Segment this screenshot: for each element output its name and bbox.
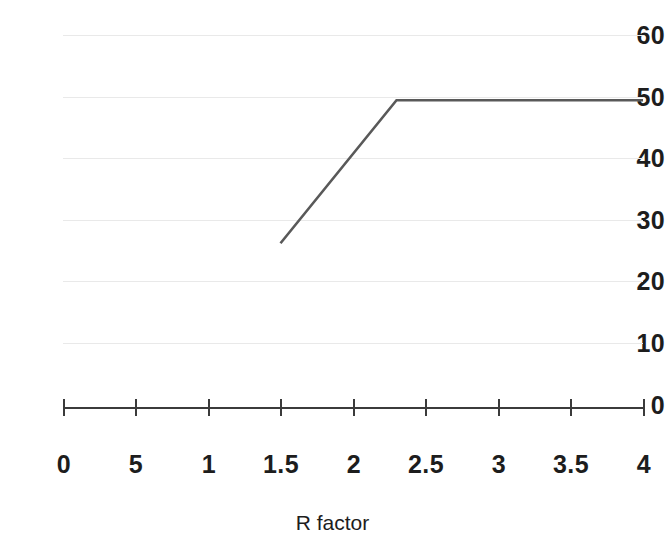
x-axis-tick xyxy=(498,399,500,416)
chart-container: 60 50 40 30 20 10 0 0 5 1 1.5 xyxy=(0,0,665,556)
x-axis-tick xyxy=(63,399,65,416)
x-axis-tick xyxy=(425,399,427,416)
data-series-line xyxy=(63,35,643,408)
x-axis-tick xyxy=(208,399,210,416)
x-axis-title: R factor xyxy=(0,512,665,533)
x-axis-tick-label: 4 xyxy=(599,452,665,477)
x-axis-tick xyxy=(643,399,645,416)
x-axis-tick xyxy=(280,399,282,416)
x-axis-tick xyxy=(135,399,137,416)
x-axis-tick xyxy=(353,399,355,416)
x-axis-tick xyxy=(570,399,572,416)
plot-area xyxy=(63,35,643,408)
